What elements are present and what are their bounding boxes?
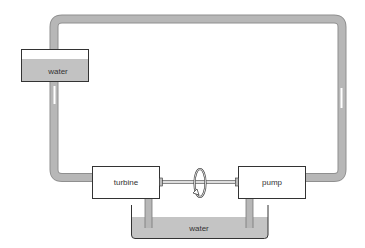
pumped-storage-diagram: water water turbine pump xyxy=(0,0,365,248)
lower-basin-label: water xyxy=(188,224,209,233)
turbine-label: turbine xyxy=(114,178,139,187)
pipe-main-inner xyxy=(54,19,342,178)
upper-tank-label: water xyxy=(47,67,68,76)
pump-intake-pipe xyxy=(246,198,253,228)
turbine-coupling xyxy=(160,178,163,186)
pipe-loop xyxy=(54,19,342,178)
pump-coupling xyxy=(236,178,239,186)
pump-label: pump xyxy=(262,178,283,187)
rotation-arrowhead xyxy=(193,189,199,195)
pump: pump xyxy=(236,167,306,199)
turbine-outlet-pipe xyxy=(145,198,152,228)
pipe-main xyxy=(54,19,342,178)
shaft xyxy=(163,181,236,184)
turbine: turbine xyxy=(93,167,163,199)
upper-tank: water xyxy=(22,50,89,82)
